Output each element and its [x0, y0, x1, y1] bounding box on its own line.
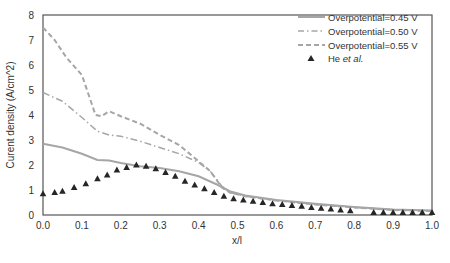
x-axis-ticks: 0.00.10.20.30.40.50.60.70.80.91.0 — [36, 220, 439, 231]
series-layer — [40, 28, 436, 215]
triangle-marker-icon — [40, 190, 47, 196]
x-tick-label: 0.2 — [114, 220, 128, 231]
triangle-marker-icon — [211, 189, 218, 195]
series-line-solid — [43, 144, 432, 211]
x-tick-label: 1.0 — [425, 220, 439, 231]
triangle-marker-icon — [370, 209, 377, 215]
triangle-marker-icon — [230, 195, 237, 201]
triangle-marker-icon — [191, 181, 198, 187]
triangle-marker-icon — [347, 207, 354, 213]
x-tick-label: 0.9 — [386, 220, 400, 231]
x-axis-label: x/l — [232, 235, 242, 246]
triangle-marker-icon — [172, 173, 179, 179]
y-tick-label: 3 — [28, 135, 34, 146]
legend-item-050: Overpotential=0.50 V — [328, 26, 418, 37]
triangle-marker-icon — [250, 198, 257, 204]
x-tick-label: 0.5 — [231, 220, 245, 231]
y-tick-label: 6 — [28, 60, 34, 71]
y-tick-label: 4 — [28, 110, 34, 121]
x-tick-label: 0.4 — [192, 220, 206, 231]
triangle-marker-icon — [221, 193, 228, 199]
y-tick-label: 0 — [28, 210, 34, 221]
triangle-marker-icon — [337, 206, 344, 212]
x-tick-label: 0.7 — [308, 220, 322, 231]
y-tick-label: 5 — [28, 85, 34, 96]
legend: Overpotential=0.45 V Overpotential=0.50 … — [298, 12, 418, 65]
y-axis-ticks: 012345678 — [28, 10, 34, 221]
triangle-marker-icon — [82, 180, 89, 186]
y-tick-label: 1 — [28, 185, 34, 196]
triangle-marker-icon — [104, 171, 111, 177]
x-tick-label: 0.8 — [347, 220, 361, 231]
current-density-chart: 012345678 0.00.10.20.30.40.50.60.70.80.9… — [0, 0, 450, 263]
legend-triangle-marker-icon — [308, 55, 315, 61]
triangle-marker-icon — [51, 189, 58, 195]
triangle-marker-icon — [94, 175, 101, 181]
triangle-marker-icon — [59, 188, 66, 194]
triangle-marker-icon — [259, 199, 266, 205]
legend-item-045: Overpotential=0.45 V — [328, 12, 418, 23]
triangle-marker-icon — [71, 184, 78, 190]
x-tick-label: 0.1 — [75, 220, 89, 231]
x-tick-label: 0.6 — [269, 220, 283, 231]
triangle-marker-icon — [201, 185, 208, 191]
y-tick-label: 2 — [28, 160, 34, 171]
y-tick-label: 7 — [28, 35, 34, 46]
series-line-dashed — [43, 28, 432, 212]
x-tick-label: 0.3 — [153, 220, 167, 231]
triangle-marker-icon — [114, 166, 121, 172]
y-axis-label: Curent density (A/cm^2) — [5, 62, 16, 169]
legend-item-he-et-al: He et al. — [328, 53, 363, 64]
x-tick-label: 0.0 — [36, 220, 50, 231]
y-tick-label: 8 — [28, 10, 34, 21]
triangle-marker-icon — [182, 178, 189, 184]
legend-item-055: Overpotential=0.55 V — [328, 40, 418, 51]
